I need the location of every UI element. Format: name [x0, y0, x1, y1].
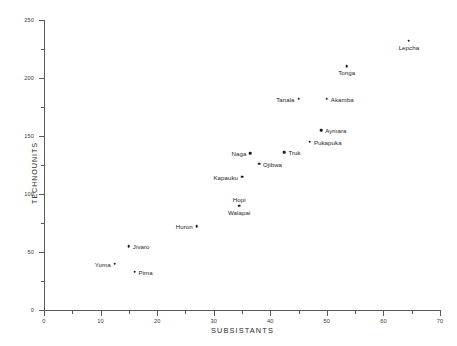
- data-point-label: Kapauku: [213, 173, 238, 180]
- x-tick: [44, 310, 45, 316]
- data-point-label: Pima: [139, 268, 153, 275]
- y-tick: [39, 20, 45, 21]
- x-tick: [270, 310, 271, 316]
- y-tick: [41, 49, 45, 50]
- y-tick-label: 100: [24, 191, 34, 197]
- x-tick: [355, 310, 356, 314]
- data-point-label: Ojibwa: [263, 160, 282, 167]
- data-point[interactable]: [133, 270, 136, 273]
- y-tick: [41, 223, 45, 224]
- data-point-label: Lepcha: [399, 44, 419, 51]
- x-tick: [242, 310, 243, 314]
- x-tick: [129, 310, 130, 314]
- x-tick: [157, 310, 158, 316]
- data-point[interactable]: [128, 245, 131, 248]
- x-tick: [412, 310, 413, 314]
- x-tick-label: 50: [324, 318, 331, 324]
- data-point[interactable]: [408, 40, 411, 43]
- x-tick-label: 30: [210, 318, 217, 324]
- y-tick: [41, 107, 45, 108]
- y-tick: [39, 194, 45, 195]
- x-tick-label: 0: [42, 318, 45, 324]
- x-tick: [440, 310, 441, 316]
- data-point[interactable]: [113, 262, 116, 265]
- y-tick: [41, 165, 45, 166]
- y-tick: [39, 252, 45, 253]
- data-point-label: Tanala: [276, 95, 294, 102]
- data-point-label: Tonga: [338, 69, 355, 76]
- data-point-label: Pukapuka: [314, 138, 342, 145]
- x-tick-label: 20: [154, 318, 161, 324]
- y-tick-label: 250: [24, 17, 34, 23]
- plot-area: 050100150200250 010203040506070 LepchaTo…: [44, 20, 440, 310]
- y-tick-label: 50: [27, 249, 34, 255]
- x-tick-label: 70: [437, 318, 444, 324]
- y-tick: [39, 136, 45, 137]
- data-point[interactable]: [258, 163, 261, 166]
- data-point[interactable]: [283, 151, 286, 154]
- x-tick-label: 10: [97, 318, 104, 324]
- x-tick-label: 60: [380, 318, 387, 324]
- data-point-label: Jivaro: [133, 243, 150, 250]
- x-tick: [383, 310, 384, 316]
- data-point-label: Walapai: [228, 209, 250, 216]
- data-point-label: Aymara: [325, 127, 346, 134]
- y-tick: [41, 281, 45, 282]
- y-tick-label: 150: [24, 133, 34, 139]
- data-point[interactable]: [345, 65, 348, 68]
- data-point-label: Truk: [288, 149, 300, 156]
- data-point[interactable]: [238, 204, 241, 207]
- scatter-chart: TECHNOUNITS SUBSISTANTS 050100150200250 …: [0, 0, 457, 346]
- x-tick: [101, 310, 102, 316]
- data-point[interactable]: [195, 225, 198, 228]
- x-tick: [299, 310, 300, 314]
- y-tick-label: 0: [31, 307, 34, 313]
- data-point-label: Hopi: [233, 196, 246, 203]
- data-point[interactable]: [320, 129, 323, 132]
- data-point[interactable]: [297, 98, 300, 101]
- data-point[interactable]: [309, 141, 312, 144]
- x-tick: [72, 310, 73, 314]
- data-point-label: Huron: [176, 223, 193, 230]
- data-point-label: Akamba: [331, 95, 354, 102]
- x-tick: [185, 310, 186, 314]
- x-tick: [214, 310, 215, 316]
- data-point-label: Yuma: [95, 260, 111, 267]
- data-point[interactable]: [326, 98, 329, 101]
- y-tick-label: 200: [24, 75, 34, 81]
- x-tick-label: 40: [267, 318, 274, 324]
- data-point[interactable]: [241, 175, 244, 178]
- data-point-label: Naga: [232, 150, 247, 157]
- y-tick: [39, 78, 45, 79]
- data-point[interactable]: [249, 152, 252, 155]
- x-axis-title: SUBSISTANTS: [44, 326, 441, 335]
- x-tick: [327, 310, 328, 316]
